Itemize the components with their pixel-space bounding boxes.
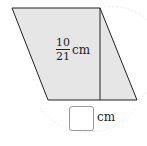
height-unit: cm <box>72 43 90 57</box>
height-label: 10 21 cm <box>56 37 90 62</box>
answer-input-box[interactable] <box>69 106 94 131</box>
denominator: 21 <box>56 51 70 62</box>
fraction: 10 21 <box>56 37 70 62</box>
numerator: 10 <box>56 37 70 48</box>
answer-unit: cm <box>97 110 115 124</box>
